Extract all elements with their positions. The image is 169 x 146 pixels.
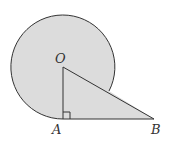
label-O: O: [55, 51, 66, 66]
shaded-region: [11, 15, 154, 119]
label-A: A: [51, 122, 61, 137]
label-B: B: [150, 122, 161, 137]
geometry-diagram: O A B: [0, 0, 169, 146]
